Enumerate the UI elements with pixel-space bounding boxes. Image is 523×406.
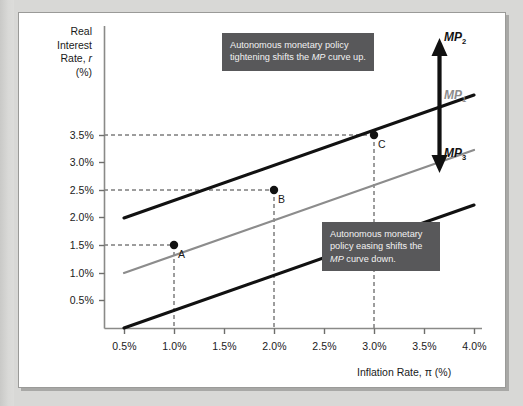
curve-label-mp1-text: MP (444, 88, 462, 102)
y-tick-label-1.0: 1.0% (46, 267, 94, 279)
axis-lines (105, 26, 483, 329)
annotation-tightening-line-1: Autonomous monetary policy (230, 39, 366, 51)
y-axis-title-line-2: Interest (20, 39, 92, 53)
curve-label-mp3-text: MP (444, 146, 462, 160)
point-c (370, 131, 378, 139)
annotation-easing-line-2: policy easing shifts the (330, 240, 432, 252)
y-tick-label-1.5: 1.5% (46, 239, 94, 251)
y-axis-title-line-4: (%) (20, 66, 92, 80)
y-tick-label-2.5: 2.5% (46, 184, 94, 196)
y-tick-label-3.5: 3.5% (46, 129, 94, 141)
point-label-a: A (178, 248, 185, 260)
x-tick-label-1.0: 1.0% (150, 340, 199, 352)
curve-mp2 (124, 95, 474, 218)
x-tick-label-0.5: 0.5% (100, 340, 149, 352)
y-axis-title-line-3: Rate, r (20, 52, 92, 66)
x-tick-label-2.0: 2.0% (250, 340, 299, 352)
curve-label-mp2-subscript: 2 (462, 37, 466, 46)
y-tick-label-2.0: 2.0% (46, 211, 94, 223)
x-tick-label-3.5: 3.5% (400, 340, 449, 352)
x-tick-label-4.0: 4.0% (450, 340, 499, 352)
point-b (270, 186, 278, 194)
annotation-easing-line-3: MP curve down. (330, 253, 432, 265)
curve-label-mp1-subscript: 1 (462, 95, 466, 104)
y-tick-label-3.0: 3.0% (46, 156, 94, 168)
y-axis-title-line-1: Real (20, 25, 92, 39)
y-axis-title: Real Interest Rate, r (%) (20, 25, 92, 79)
y-tick-marks (99, 136, 105, 301)
annotation-tightening-line-2: tightening shifts the MP curve up. (230, 51, 366, 63)
curve-label-mp1: MP1 (444, 88, 466, 104)
x-axis-title: Inflation Rate, π (%) (357, 366, 451, 378)
point-label-b: B (278, 193, 285, 205)
x-tick-label-1.5: 1.5% (200, 340, 249, 352)
x-tick-label-2.5: 2.5% (300, 340, 349, 352)
annotation-tightening: Autonomous monetary policy tightening sh… (222, 33, 374, 71)
curve-label-mp2-text: MP (444, 30, 462, 44)
annotation-easing-line-1: Autonomous monetary (330, 228, 432, 240)
x-tick-marks (125, 329, 475, 335)
point-label-c: C (378, 138, 386, 150)
curve-label-mp2: MP2 (444, 30, 466, 46)
point-a (170, 241, 178, 249)
y-tick-label-0.5: 0.5% (46, 294, 94, 306)
annotation-easing: Autonomous monetary policy easing shifts… (322, 222, 440, 271)
x-tick-label-3.0: 3.0% (350, 340, 399, 352)
curve-label-mp3: MP3 (444, 146, 466, 162)
curve-label-mp3-subscript: 3 (462, 153, 466, 162)
figure-screenshot: Real Interest Rate, r (%) 3.5% 3.0% 2.5%… (0, 0, 523, 406)
